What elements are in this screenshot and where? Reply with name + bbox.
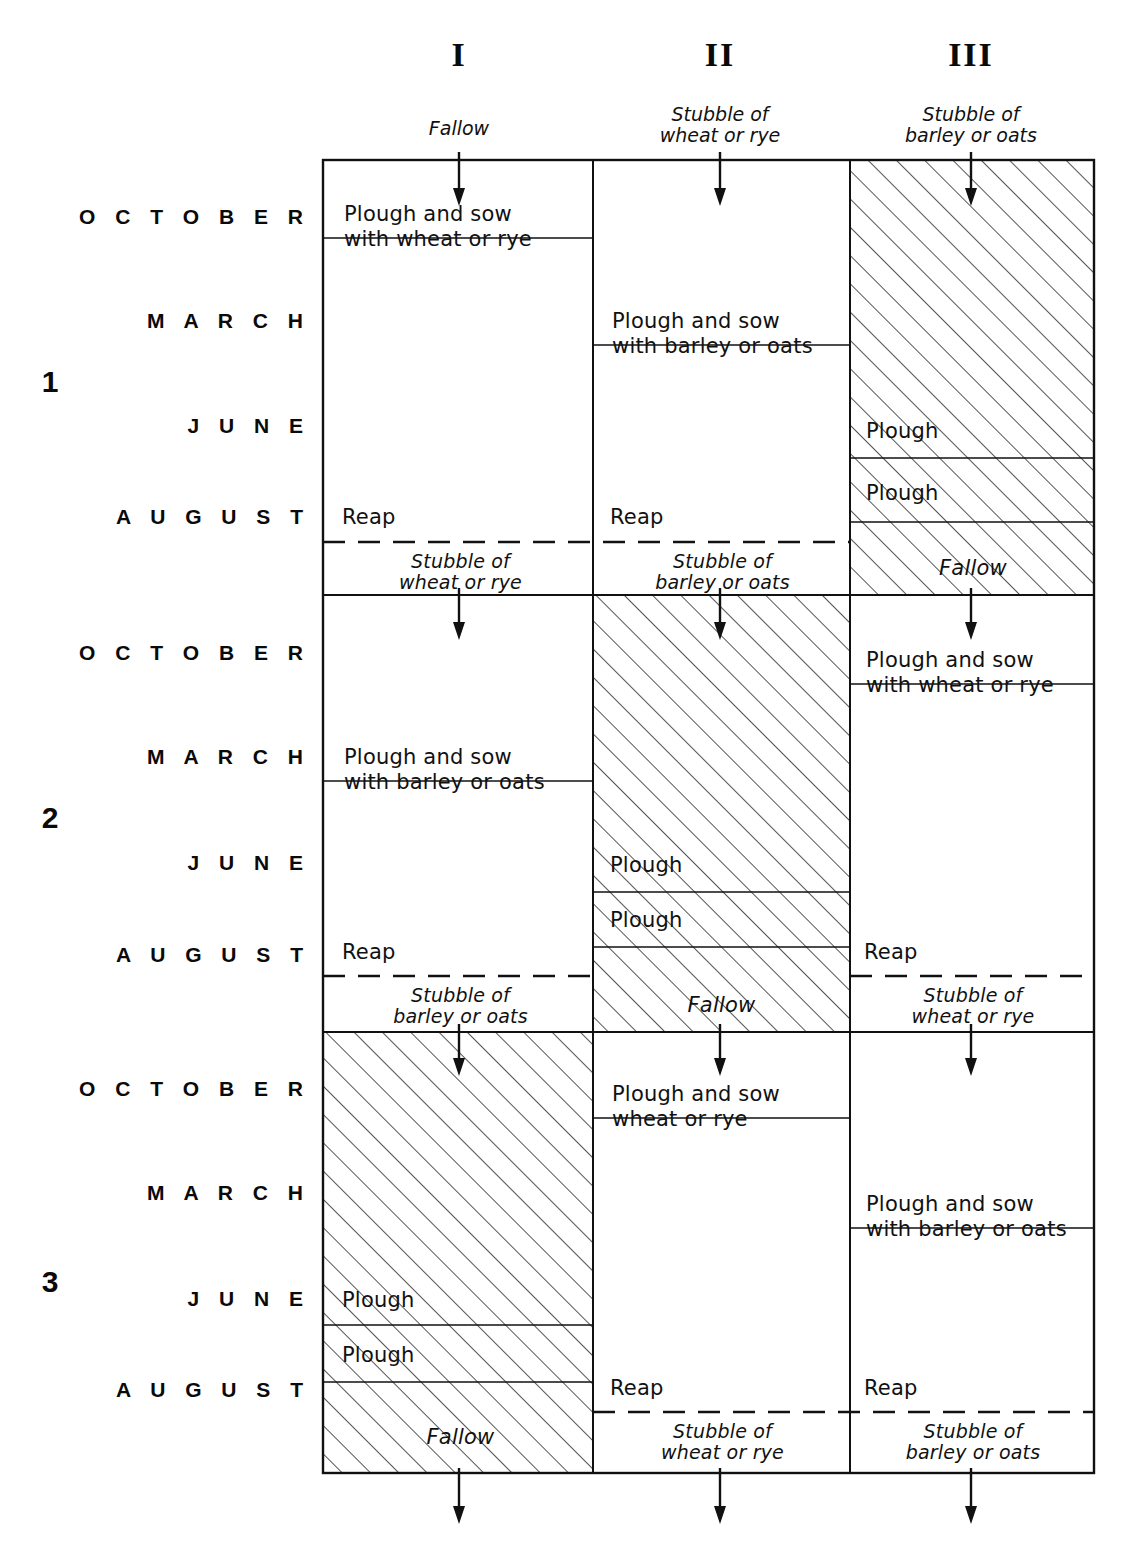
cell-y2c2-plough-2: Plough [610,908,683,933]
column-caption-1: Fallow [329,118,589,139]
cell-y2c2-plough-1: Plough [610,853,683,878]
cell-y3c1-plough-1: Plough [342,1288,415,1313]
cell-y1c1-action: Plough and sow with wheat or rye [344,202,594,252]
cell-y1c1-outcome: Stubble of wheat or rye [333,551,588,593]
month-label-october-y3: O C T O B E R [0,1077,310,1101]
fallow-hatch-y2c2 [593,595,850,1032]
year-label-1: 1 [30,365,70,399]
month-label-august-y2: A U G U S T [0,943,310,967]
month-label-august-y3: A U G U S T [0,1378,310,1402]
arrow-bottom-col3 [965,1468,977,1524]
cell-y1c3-plough-2: Plough [866,481,939,506]
column-numeral-1: I [359,36,559,74]
month-label-october-y1: O C T O B E R [0,205,310,229]
cell-y3c2-outcome: Stubble of wheat or rye [600,1421,845,1463]
cell-y2c3-action: Plough and sow with wheat or rye [866,648,1094,698]
cell-y1c3-outcome: Fallow [854,556,1092,581]
month-label-october-y2: O C T O B E R [0,641,310,665]
crop-rotation-diagram: I II III Fallow Stubble of wheat or rye … [0,0,1124,1554]
month-label-june-y2: J U N E [0,851,310,875]
fallow-hatch-y1c3 [850,160,1094,595]
column-numeral-3: III [871,36,1071,74]
cell-y3c3-action: Plough and sow with barley or oats [866,1192,1094,1242]
month-label-march-y3: M A R C H [0,1181,310,1205]
month-label-june-y1: J U N E [0,414,310,438]
column-caption-3: Stubble of barley or oats [841,104,1101,147]
month-label-march-y1: M A R C H [0,309,310,333]
year-label-3: 3 [30,1265,70,1299]
column-numeral-2: II [620,36,820,74]
cell-y3c2-action: Plough and sow wheat or rye [612,1082,848,1132]
arrow-bottom-col2 [714,1468,726,1524]
cell-y2c2-outcome: Fallow [600,993,843,1018]
cell-y2c3-outcome: Stubble of wheat or rye [854,985,1092,1027]
cell-y2c1-outcome: Stubble of barley or oats [333,985,588,1027]
column-caption-2: Stubble of wheat or rye [590,104,850,147]
month-label-august-y1: A U G U S T [0,505,310,529]
cell-y3c3-outcome: Stubble of barley or oats [854,1421,1092,1463]
cell-y1c1-reap: Reap [342,505,396,530]
cell-y1c2-reap: Reap [610,505,664,530]
cell-y2c1-reap: Reap [342,940,396,965]
arrow-bottom-col1 [453,1468,465,1524]
cell-y3c1-outcome: Fallow [333,1425,588,1450]
cell-y3c2-reap: Reap [610,1376,664,1401]
cell-y1c2-action: Plough and sow with barley or oats [612,309,852,359]
cell-y3c3-reap: Reap [864,1376,918,1401]
year-label-2: 2 [30,801,70,835]
cell-y1c3-plough-1: Plough [866,419,939,444]
cell-y2c3-reap: Reap [864,940,918,965]
cell-y2c1-action: Plough and sow with barley or oats [344,745,596,795]
month-label-march-y2: M A R C H [0,745,310,769]
fallow-hatch-y3c1 [323,1032,593,1473]
cell-y3c1-plough-2: Plough [342,1343,415,1368]
cell-y1c2-outcome: Stubble of barley or oats [600,551,845,593]
